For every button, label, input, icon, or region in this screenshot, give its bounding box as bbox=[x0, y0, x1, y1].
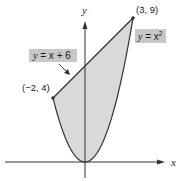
point-label-right: (3, 9) bbox=[136, 4, 158, 15]
point-label-left: (−2, 4) bbox=[22, 82, 50, 93]
region-diagram: y x (3, 9) (−2, 4) y = x + 6 y = x2 bbox=[0, 0, 180, 181]
x-axis-label: x bbox=[170, 156, 176, 168]
y-axis-label: y bbox=[81, 4, 87, 16]
point-marker-left bbox=[51, 96, 55, 100]
x-axis-arrow-icon bbox=[157, 160, 165, 165]
point-marker-right bbox=[131, 16, 135, 20]
shaded-region-fill bbox=[53, 18, 133, 162]
y-axis-arrow-icon bbox=[83, 21, 88, 29]
line-equation-label: y = x + 6 bbox=[32, 50, 71, 61]
